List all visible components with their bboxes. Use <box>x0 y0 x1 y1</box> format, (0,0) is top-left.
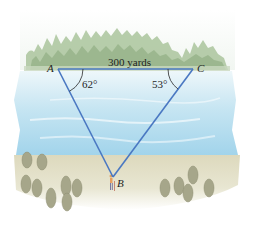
side-ac-length-label: 300 yards <box>108 57 151 68</box>
lake-triangle-diagram: A C B 300 yards 62° 53° <box>0 0 253 226</box>
vertex-a-label: A <box>47 63 54 74</box>
scene-illustration <box>0 0 253 226</box>
angle-c-label: 53° <box>152 79 167 90</box>
vertex-b-label: B <box>117 178 124 189</box>
angle-a-label: 62° <box>82 79 97 90</box>
vertex-c-label: C <box>197 63 204 74</box>
lake-water <box>14 71 238 155</box>
